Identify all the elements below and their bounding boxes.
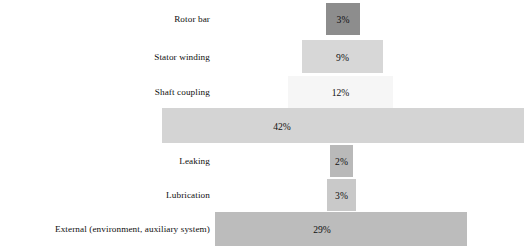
bar-stator-winding: 9%	[302, 40, 383, 73]
category-label: Lubrication	[166, 190, 210, 200]
chart-row: Shaft coupling 12%	[0, 76, 524, 108]
bar-leaking: 2%	[330, 145, 353, 177]
horizontal-bar-chart: Rotor bar 3% Stator winding 9% Shaft cou…	[0, 0, 524, 247]
category-label: Leaking	[179, 156, 210, 166]
category-label: Stator winding	[154, 52, 210, 62]
bar-bearing: 42%	[162, 108, 524, 143]
category-label: External (environment, auxiliary system)	[55, 224, 210, 234]
chart-row: Rotor bar 3%	[0, 3, 524, 35]
bar-value-label: 29%	[196, 224, 448, 235]
bar-value-label: 2%	[330, 156, 353, 167]
chart-row: Lubrication 3%	[0, 179, 524, 211]
chart-row: Leaking 2%	[0, 145, 524, 177]
chart-row: Stator winding 9%	[0, 40, 524, 73]
category-label: Shaft coupling	[155, 87, 210, 97]
bar-value-label: 3%	[326, 14, 360, 25]
bar-shaft-coupling: 12%	[288, 76, 393, 108]
bar-lubrication: 3%	[327, 179, 356, 211]
chart-row: External (environment, auxiliary system)…	[0, 212, 524, 246]
bar-value-label: 42%	[101, 120, 463, 131]
bar-value-label: 3%	[327, 190, 356, 201]
bar-value-label: 9%	[302, 51, 383, 62]
bar-value-label: 12%	[288, 87, 393, 98]
chart-row: Bearing 42%	[0, 108, 524, 143]
category-label: Rotor bar	[174, 14, 210, 24]
bar-rotor-bar: 3%	[326, 3, 360, 35]
bar-external: 29%	[215, 212, 467, 246]
